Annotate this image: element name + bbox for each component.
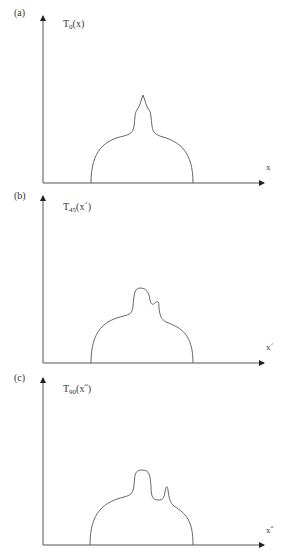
panel-c-function-label: T90(x˝): [63, 383, 91, 396]
panel-b-axis-label: x´: [266, 342, 274, 352]
panel-c-function-arg: (x˝): [76, 383, 91, 394]
panel-c-curve: [90, 470, 193, 545]
panel-b-function-label: T45(x´): [63, 201, 91, 214]
panel-c-axis-label: x˝: [266, 525, 274, 535]
panel-b-plot: [43, 196, 264, 363]
panel-a-label: (a): [14, 7, 25, 18]
panel-a-function-arg: (x): [73, 18, 85, 29]
panel-a-curve: [91, 95, 193, 183]
panel-a-function-label: T0(x): [63, 18, 84, 31]
panel-c-label: (c): [14, 372, 25, 383]
panel-b-curve: [91, 288, 193, 363]
panel-b-function-arg: (x´): [76, 201, 91, 212]
diagram-canvas: [0, 0, 288, 560]
panel-b-label: (b): [14, 190, 26, 201]
panel-c-plot: [43, 378, 264, 545]
panel-a-plot: [43, 16, 264, 183]
panel-a-axis-label: x: [266, 162, 271, 172]
